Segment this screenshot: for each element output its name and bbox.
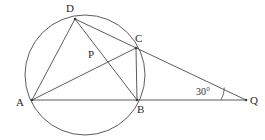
circumscribed-circle: [25, 15, 145, 135]
vertex-dot-D: [74, 18, 77, 21]
point-label-P: P: [88, 49, 94, 60]
angle-label-30-degrees: 30°: [196, 87, 210, 97]
geometry-canvas: [0, 0, 265, 140]
point-label-D: D: [66, 3, 74, 14]
segment-DB: [75, 19, 137, 100]
vertex-dot-A: [31, 99, 34, 102]
segment-DA: [32, 19, 75, 100]
vertex-dot-Q: [245, 99, 248, 102]
vertex-dot-B: [136, 99, 139, 102]
segment-DQ: [75, 19, 246, 100]
point-label-C: C: [135, 33, 142, 44]
point-label-A: A: [16, 97, 24, 108]
point-label-Q: Q: [250, 95, 258, 106]
segment-CB: [136, 48, 137, 100]
geometry-diagram: A B C D P Q 30°: [0, 0, 265, 140]
segment-AC: [32, 48, 136, 100]
point-label-B: B: [137, 104, 144, 115]
vertex-dot-C: [135, 47, 138, 50]
